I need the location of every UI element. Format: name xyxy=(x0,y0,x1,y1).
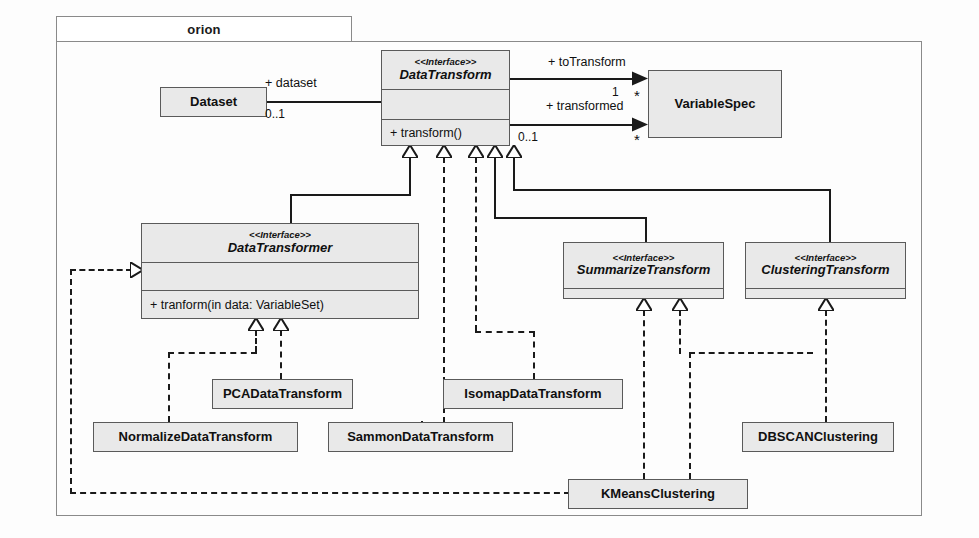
realization-arrow-sammon xyxy=(436,145,452,158)
class-normalize-data-transform[interactable]: NormalizeDataTransform xyxy=(93,422,298,452)
realization-line-kmeans-clustering-h xyxy=(689,352,813,354)
realization-line-dbscan-v xyxy=(825,310,827,422)
realization-line-pca-v xyxy=(280,330,282,379)
generalization-line-datatransformer-h xyxy=(290,194,411,196)
class-data-transformer[interactable]: <<Interface>> DataTransformer + tranform… xyxy=(141,223,419,319)
class-isomap-data-transform-header: IsomapDataTransform xyxy=(444,380,622,408)
class-data-transform-operation: + transform() xyxy=(390,126,462,140)
assoc-dataset-multiplicity: 0..1 xyxy=(265,107,285,121)
realization-line-kmeans-clustering-v1 xyxy=(679,310,681,354)
class-pca-data-transform-name: PCADataTransform xyxy=(223,387,342,402)
class-data-transform[interactable]: <<Interface>> DataTransform + transform(… xyxy=(381,50,510,146)
realization-line-kmeans-dt-v xyxy=(70,269,72,494)
package-name: orion xyxy=(187,22,221,37)
realization-line-kmeans-dt-h1 xyxy=(70,269,132,271)
generalization-line-datatransformer-v2 xyxy=(290,194,292,223)
generalization-line-summarize-h xyxy=(494,217,647,219)
class-dbscan-clustering[interactable]: DBSCANClustering xyxy=(742,422,894,452)
class-data-transform-operations: + transform() xyxy=(382,119,509,145)
package-tab: orion xyxy=(56,16,352,42)
realization-arrow-kmeans-clustering xyxy=(672,298,688,311)
class-isomap-data-transform[interactable]: IsomapDataTransform xyxy=(443,379,623,409)
class-kmeans-clustering-header: KMeansClustering xyxy=(569,480,747,508)
realization-line-kmeans-dt-h2 xyxy=(70,492,570,494)
class-data-transform-header: <<Interface>> DataTransform xyxy=(382,51,509,89)
assoc-transformed-target-mult: * xyxy=(634,136,640,144)
class-sammon-data-transform-name: SammonDataTransform xyxy=(347,430,494,445)
assoc-dataset-role: + dataset xyxy=(265,76,317,90)
class-isomap-data-transform-name: IsomapDataTransform xyxy=(464,387,601,402)
realization-line-kmeans-clustering-v2 xyxy=(689,352,691,479)
class-variable-spec[interactable]: VariableSpec xyxy=(648,70,782,138)
class-clustering-transform[interactable]: <<Interface>> ClusteringTransform xyxy=(745,242,906,299)
class-dataset-name: Dataset xyxy=(190,95,237,110)
class-kmeans-clustering[interactable]: KMeansClustering xyxy=(568,479,748,509)
assoc-transformed-role: + transformed xyxy=(546,99,623,113)
realization-line-kmeans-summarize-v xyxy=(643,310,645,479)
uml-class-diagram: orion + dataset 0..1 + toTransform 1 * +… xyxy=(0,0,979,538)
generalization-line-clustering-v1 xyxy=(513,157,515,191)
realization-arrow-dbscan xyxy=(818,298,834,311)
assoc-transformed-source-mult: 0..1 xyxy=(518,130,538,144)
assoc-totransform-line xyxy=(510,78,638,80)
class-summarize-transform-name: SummarizeTransform xyxy=(577,263,710,278)
assoc-totransform-arrowhead xyxy=(632,71,648,86)
realization-line-isomap-h xyxy=(475,331,535,333)
class-variable-spec-name: VariableSpec xyxy=(675,97,756,112)
realization-line-normalize-h xyxy=(168,352,257,354)
generalization-line-summarize-v1 xyxy=(494,157,496,219)
class-clustering-transform-body xyxy=(746,288,905,298)
assoc-transformed-arrowhead xyxy=(632,117,648,132)
class-data-transformer-attributes xyxy=(142,262,418,290)
class-data-transformer-name: DataTransformer xyxy=(228,241,333,256)
class-data-transformer-header: <<Interface>> DataTransformer xyxy=(142,224,418,262)
class-dbscan-clustering-header: DBSCANClustering xyxy=(743,423,893,451)
class-pca-data-transform-header: PCADataTransform xyxy=(213,380,352,408)
generalization-line-clustering-v2 xyxy=(829,189,831,242)
generalization-arrow-summarize xyxy=(487,145,503,158)
assoc-totransform-target-mult: * xyxy=(634,92,640,100)
class-variable-spec-header: VariableSpec xyxy=(649,71,781,137)
class-dataset[interactable]: Dataset xyxy=(160,87,267,117)
realization-arrow-normalize xyxy=(248,318,264,331)
class-clustering-transform-header: <<Interface>> ClusteringTransform xyxy=(746,243,905,288)
class-pca-data-transform[interactable]: PCADataTransform xyxy=(212,379,353,409)
generalization-line-datatransformer-v1 xyxy=(409,157,411,196)
realization-arrow-kmeans-summarize xyxy=(636,298,652,311)
class-normalize-data-transform-header: NormalizeDataTransform xyxy=(94,423,297,451)
realization-line-normalize-v2 xyxy=(168,352,170,422)
class-sammon-data-transform[interactable]: SammonDataTransform xyxy=(328,422,513,452)
generalization-arrow-clustering xyxy=(506,145,522,158)
class-clustering-transform-name: ClusteringTransform xyxy=(761,263,889,278)
class-data-transformer-operation: + tranform(in data: VariableSet) xyxy=(150,298,324,312)
class-data-transform-attributes xyxy=(382,89,509,119)
class-summarize-transform[interactable]: <<Interface>> SummarizeTransform xyxy=(563,242,724,299)
class-sammon-data-transform-header: SammonDataTransform xyxy=(329,423,512,451)
assoc-totransform-source-mult: 1 xyxy=(612,85,619,99)
generalization-line-clustering-h xyxy=(513,189,831,191)
realization-line-normalize-v1 xyxy=(255,330,257,352)
class-data-transformer-operations: + tranform(in data: VariableSet) xyxy=(142,290,418,318)
class-summarize-transform-body xyxy=(564,288,723,298)
realization-line-isomap-v2 xyxy=(533,331,535,379)
class-dbscan-clustering-name: DBSCANClustering xyxy=(758,430,878,445)
class-data-transform-name: DataTransform xyxy=(399,68,491,83)
realization-arrow-pca xyxy=(273,318,289,331)
class-dataset-header: Dataset xyxy=(161,88,266,116)
assoc-transformed-line xyxy=(510,124,638,126)
realization-arrow-isomap xyxy=(468,145,484,158)
generalization-line-summarize-v2 xyxy=(645,217,647,242)
class-kmeans-clustering-name: KMeansClustering xyxy=(601,487,715,502)
generalization-arrow-datatransformer xyxy=(402,145,418,158)
realization-line-isomap-v xyxy=(475,157,477,331)
assoc-totransform-role: + toTransform xyxy=(548,55,626,69)
class-summarize-transform-header: <<Interface>> SummarizeTransform xyxy=(564,243,723,288)
class-normalize-data-transform-name: NormalizeDataTransform xyxy=(119,430,273,445)
